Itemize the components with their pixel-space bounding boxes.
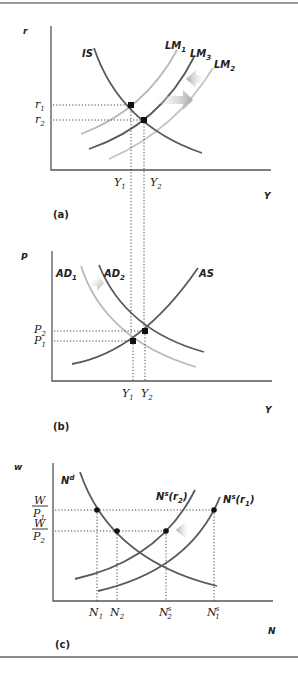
figure: r Y IS LM1 LM3 LM2 r1 r2 Y1 Y2 (a) P — [0, 0, 298, 674]
panel-c-label: (c) — [55, 639, 70, 650]
ad1-label: AD1 — [55, 268, 77, 282]
n2-tick: N2 — [109, 606, 125, 621]
lm1-curve — [81, 50, 177, 134]
lm2-label: LM2 — [214, 59, 235, 73]
panel-a: r Y IS LM1 LM3 LM2 r1 r2 Y1 Y2 (a) — [23, 26, 272, 341]
ad-shift-arrow — [91, 275, 104, 291]
ns-r1-curve — [98, 497, 220, 591]
svg-text:W: W — [34, 517, 47, 530]
bottom-rule — [0, 656, 298, 658]
panel-b: P Y AD1 AD2 AS P2 P1 Y1 Y2 (b) — [21, 251, 273, 432]
x-axis-label-y: Y — [264, 191, 272, 201]
point-n1s — [211, 507, 217, 513]
y1-tick: Y1 — [114, 176, 126, 191]
shift-left-arrow — [186, 70, 208, 88]
equilibrium-point-2 — [142, 328, 148, 334]
point-n2 — [114, 528, 120, 534]
panel-c: w N Nd Ns(r2) Ns(r1) W P1 W — [14, 462, 276, 650]
axes — [53, 463, 273, 601]
nd-curve — [80, 472, 217, 586]
y2-tick: Y2 — [141, 387, 153, 402]
ns-shift-arrow — [176, 522, 190, 538]
ns-r2-label: Ns(r2) — [156, 490, 188, 505]
nd-label: Nd — [61, 474, 75, 486]
ns-r1-label: Ns(r1) — [223, 493, 255, 508]
panel-b-label: (b) — [53, 421, 69, 432]
n2s-tick: Ns2 — [158, 605, 172, 621]
point-n1 — [94, 507, 100, 513]
point-n2s — [163, 528, 169, 534]
as-label: AS — [198, 268, 214, 279]
svg-text:W: W — [34, 494, 47, 507]
equilibrium-point-2 — [141, 117, 147, 123]
r2-tick: r2 — [35, 113, 45, 128]
y-axis-label-p: P — [21, 252, 28, 262]
y-axis-label-r: r — [23, 26, 28, 36]
equilibrium-point-1 — [128, 102, 134, 108]
y-axis-label-w: w — [14, 462, 23, 472]
wp2-tick: W P2 — [32, 517, 48, 545]
n1-tick: N1 — [88, 606, 103, 621]
svg-text:P2: P2 — [32, 530, 45, 545]
y2-tick: Y2 — [150, 176, 162, 191]
panel-a-label: (a) — [53, 209, 69, 220]
x-axis-label-n: N — [268, 626, 276, 636]
is-label: IS — [82, 48, 93, 59]
r1-tick: r1 — [35, 98, 45, 113]
ns-r2-curve — [75, 490, 195, 579]
n1s-tick: Ns1 — [206, 605, 220, 621]
x-axis-label-y: Y — [265, 405, 273, 415]
y1-tick: Y1 — [122, 387, 134, 402]
equilibrium-point-1 — [130, 338, 136, 344]
